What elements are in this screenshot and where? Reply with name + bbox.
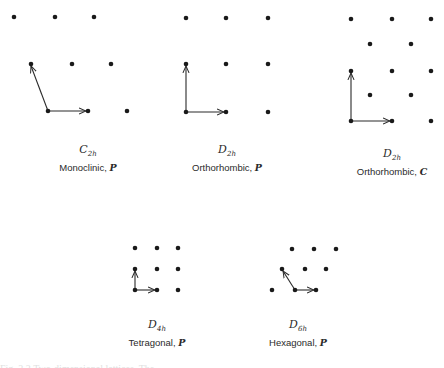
lattice-hexagonal-p	[270, 247, 339, 293]
lattice-tetragonal-p	[133, 246, 181, 293]
lattice-point	[368, 93, 373, 98]
lattice-point	[390, 17, 395, 22]
point-group-label: D6h	[289, 318, 307, 333]
lattice-point	[334, 247, 339, 252]
lattice-point	[303, 267, 308, 272]
lattice-type-label: Hexagonal, P	[269, 337, 327, 348]
lattice-point	[176, 267, 181, 272]
lattice-type-label: Orthorhombic, P	[192, 162, 262, 173]
lattice-point	[176, 246, 181, 251]
lattice-point	[133, 267, 138, 272]
lattice-point	[280, 267, 285, 272]
lattice-point	[429, 17, 434, 22]
lattice-point	[266, 62, 271, 67]
lattice-point	[133, 246, 138, 251]
point-group-label: D4h	[148, 318, 166, 333]
lattice-point	[29, 62, 34, 67]
lattice-point	[429, 119, 434, 124]
lattice-point	[70, 62, 75, 67]
lattice-point	[184, 62, 189, 67]
lattice-point	[125, 109, 130, 114]
lattice-point	[409, 93, 414, 98]
lattice-point	[224, 110, 229, 115]
lattice-point	[409, 42, 414, 47]
lattice-point	[290, 247, 295, 252]
lattice-point	[429, 69, 434, 74]
lattice-point	[390, 119, 395, 124]
lattice-point	[46, 109, 51, 114]
basis-vector-arrow-icon	[283, 271, 295, 290]
lattice-point	[92, 15, 97, 20]
lattice-point	[312, 247, 317, 252]
lattice-point	[368, 42, 373, 47]
lattice-point	[155, 267, 160, 272]
lattice-point	[349, 119, 354, 124]
lattice-point	[266, 110, 271, 115]
lattice-point	[86, 109, 91, 114]
lattice-point	[109, 62, 114, 67]
lattice-point	[349, 69, 354, 74]
point-group-label: D2h	[218, 143, 236, 158]
lattice-point	[12, 15, 17, 20]
lattice-point	[293, 288, 298, 293]
lattice-monoclinic-p	[12, 15, 130, 114]
lattice-orthorhombic-p	[184, 16, 271, 115]
lattice-point	[133, 288, 138, 293]
lattice-type-label: Orthorhombic, C	[357, 166, 427, 177]
basis-vector-arrow-icon	[31, 66, 48, 111]
lattice-type-label: Tetragonal, P	[129, 337, 186, 348]
lattice-point	[324, 267, 329, 272]
lattice-point	[266, 16, 271, 21]
point-group-label: D2h	[383, 147, 401, 162]
lattice-point	[155, 288, 160, 293]
lattice-type-label: Monoclinic, P	[59, 162, 116, 173]
lattice-point	[390, 69, 395, 74]
lattice-point	[53, 15, 58, 20]
lattice-point	[224, 62, 229, 67]
lattice-point	[184, 110, 189, 115]
lattice-diagram-canvas	[0, 0, 444, 368]
lattice-point	[184, 16, 189, 21]
lattice-point	[349, 17, 354, 22]
lattice-point	[155, 246, 160, 251]
lattice-point	[314, 288, 319, 293]
lattice-point	[224, 16, 229, 21]
point-group-label: C2h	[79, 143, 96, 158]
lattice-point	[270, 288, 275, 293]
lattice-orthorhombic-c	[349, 17, 434, 124]
lattice-point	[176, 288, 181, 293]
clipped-figure-caption: Fig. 2.2 Two-dimensional lattices. The .…	[0, 360, 444, 368]
